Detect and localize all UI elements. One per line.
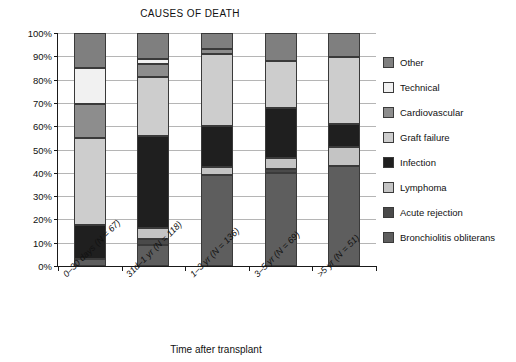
bar-segment[interactable] (74, 138, 106, 225)
y-axis-tick (54, 126, 58, 127)
y-axis-tick-label: 80% (33, 74, 52, 85)
y-axis-tick-label: 100% (28, 28, 52, 39)
y-axis-tick-label: 90% (33, 51, 52, 62)
x-axis-tick (185, 266, 186, 271)
bar-segment[interactable] (137, 77, 169, 135)
chart-figure: CAUSES OF DEATH Percent of patients 0%10… (0, 0, 516, 362)
legend-item-label: Acute rejection (400, 207, 463, 218)
x-axis-label: Time after transplant (57, 344, 375, 355)
chart-title: CAUSES OF DEATH (0, 8, 380, 19)
y-axis-tick-label: 50% (33, 144, 52, 155)
y-axis-tick-label: 20% (33, 214, 52, 225)
bar-segment[interactable] (137, 33, 169, 59)
legend-item-label: Infection (400, 157, 436, 168)
y-axis-tick-label: 70% (33, 97, 52, 108)
legend-swatch-icon (383, 107, 394, 118)
y-axis-tick (54, 219, 58, 220)
x-axis-tick (312, 266, 313, 271)
y-axis-tick (54, 150, 58, 151)
legend-item-label: Cardiovascular (400, 107, 463, 118)
legend-item[interactable]: Technical (383, 75, 513, 100)
legend-swatch-icon (383, 132, 394, 143)
bar-segment[interactable] (265, 108, 297, 158)
bar-segment[interactable] (137, 136, 169, 228)
legend-item-label: Graft failure (400, 132, 450, 143)
legend-item[interactable]: Infection (383, 150, 513, 175)
legend-item-label: Bronchiolitis obliterans (400, 232, 495, 243)
legend-item[interactable]: Cardiovascular (383, 100, 513, 125)
bar-stack[interactable] (328, 33, 360, 266)
legend-swatch-icon (383, 232, 394, 243)
bar-segment[interactable] (265, 169, 297, 172)
legend-swatch-icon (383, 82, 394, 93)
bar-segment[interactable] (74, 104, 106, 138)
y-axis-tick (54, 243, 58, 244)
bar-segment[interactable] (328, 124, 360, 147)
bar-segment[interactable] (265, 33, 297, 61)
x-axis-tick (122, 266, 123, 271)
bar-segment[interactable] (201, 126, 233, 167)
legend-item-label: Other (400, 57, 424, 68)
bar-segment[interactable] (201, 54, 233, 126)
legend-swatch-icon (383, 157, 394, 168)
bar-segment[interactable] (265, 61, 297, 108)
y-axis-tick-label: 60% (33, 121, 52, 132)
legend-swatch-icon (383, 182, 394, 193)
bar-segment[interactable] (201, 49, 233, 54)
x-axis-tick (249, 266, 250, 271)
y-axis-tick (54, 80, 58, 81)
bar-segment[interactable] (137, 64, 169, 77)
y-axis-tick (54, 103, 58, 104)
x-axis-tick (376, 266, 377, 271)
legend-item[interactable]: Graft failure (383, 125, 513, 150)
bar-segment[interactable] (74, 33, 106, 68)
legend-item[interactable]: Bronchiolitis obliterans (383, 225, 513, 250)
y-axis-tick-label: 30% (33, 191, 52, 202)
bar-segment[interactable] (74, 68, 106, 104)
legend-item-label: Technical (400, 82, 440, 93)
legend-item[interactable]: Lymphoma (383, 175, 513, 200)
legend-item[interactable]: Other (383, 50, 513, 75)
bar-segment[interactable] (137, 59, 169, 65)
y-axis-tick-label: 10% (33, 237, 52, 248)
y-axis-tick (54, 56, 58, 57)
legend-swatch-icon (383, 207, 394, 218)
bar-segment[interactable] (328, 57, 360, 123)
y-axis-tick-label: 0% (38, 261, 52, 272)
bar-segment[interactable] (265, 158, 297, 170)
legend-item[interactable]: Acute rejection (383, 200, 513, 225)
y-axis-tick (54, 173, 58, 174)
bar-segment[interactable] (201, 167, 233, 175)
bar-segment[interactable] (328, 33, 360, 57)
y-axis-tick-label: 40% (33, 167, 52, 178)
x-axis-tick (58, 266, 59, 271)
legend-item-label: Lymphoma (400, 182, 447, 193)
y-axis-tick (54, 196, 58, 197)
legend-swatch-icon (383, 57, 394, 68)
y-axis-tick (54, 33, 58, 34)
bar-segment[interactable] (328, 147, 360, 166)
bar-segment[interactable] (201, 33, 233, 49)
chart-legend: OtherTechnicalCardiovascularGraft failur… (383, 50, 513, 250)
